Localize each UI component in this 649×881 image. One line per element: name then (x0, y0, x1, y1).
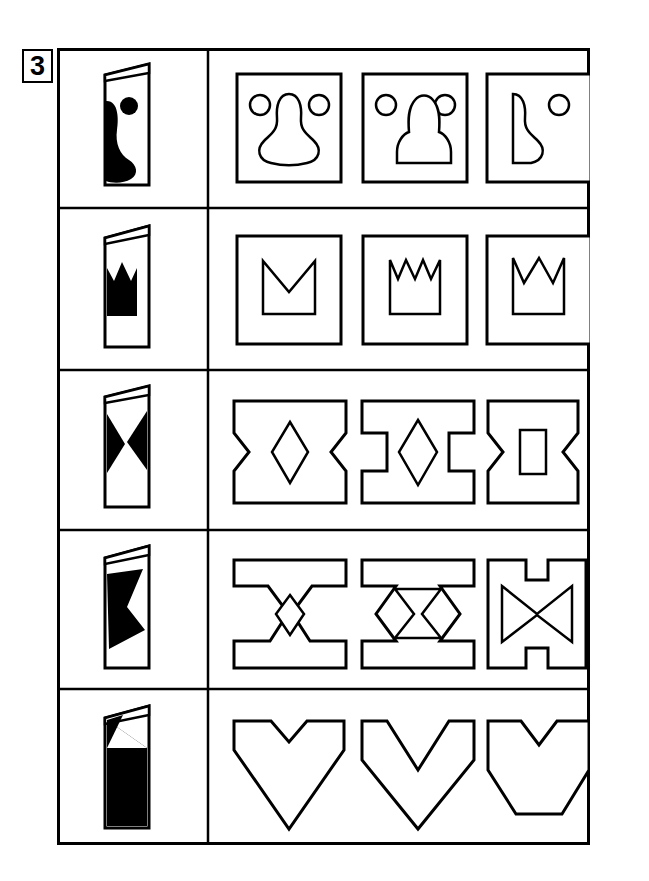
row-2 (105, 226, 590, 347)
row-3 (105, 386, 578, 507)
row-2-option-1[interactable] (237, 236, 341, 344)
row-4-option-2[interactable] (362, 560, 474, 668)
prompt-dot-shape (120, 97, 138, 115)
row-2-option-3[interactable] (487, 236, 590, 344)
row-3-option-2[interactable] (362, 401, 474, 503)
row-4-option-3[interactable] (488, 560, 586, 668)
row-5-option-3[interactable] (488, 721, 589, 814)
row-5-option-1[interactable] (234, 721, 344, 829)
row-3-option-3[interactable] (488, 401, 578, 503)
option-chevron-arrow-shape (362, 721, 474, 829)
grid-svg (57, 48, 590, 845)
row-5-prompt-card[interactable] (105, 706, 149, 828)
row-2-prompt-card[interactable] (105, 226, 149, 347)
row-1-prompt-card[interactable] (105, 64, 149, 185)
row-2-option-2[interactable] (363, 236, 467, 344)
row-3-option-1[interactable] (234, 401, 346, 503)
row-1-option-3[interactable] (487, 74, 590, 182)
option-rectangle-hole (520, 430, 546, 474)
option-heart-arrow-shape (234, 721, 344, 829)
row-4-prompt-card[interactable] (105, 546, 149, 668)
row-5-option-2[interactable] (362, 721, 474, 829)
row-1-option-1[interactable] (237, 74, 341, 182)
option-heart-flat-bottom-shape (488, 721, 589, 814)
task-number: 3 (30, 53, 45, 80)
task-number-box: 3 (22, 49, 53, 83)
row-1-option-2[interactable] (363, 74, 467, 182)
worksheet-page: 3 (0, 0, 649, 881)
exercise-grid (57, 48, 590, 845)
row-1 (105, 64, 590, 185)
row-3-prompt-card[interactable] (105, 386, 149, 507)
row-4 (105, 546, 586, 668)
row-4-option-1[interactable] (234, 560, 346, 668)
row-5 (105, 706, 589, 829)
